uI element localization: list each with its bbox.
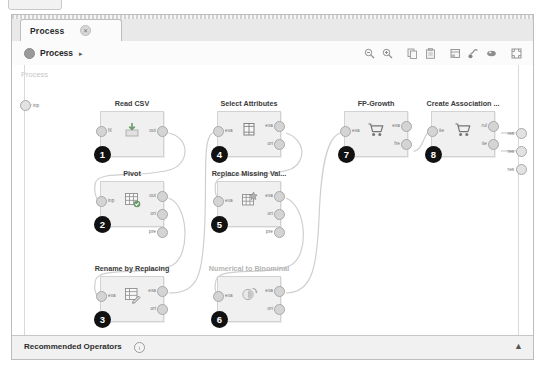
port-out-rul[interactable]	[488, 121, 499, 132]
port-label: ite	[439, 128, 444, 133]
operator-body[interactable]: inpoutoripre2	[100, 181, 164, 227]
port-label: out	[149, 193, 156, 198]
port-label: exa	[148, 288, 156, 293]
operator-node-4[interactable]: Select Attributesexaexaori4	[217, 111, 281, 157]
operator-body[interactable]: exaexafre7	[344, 111, 408, 157]
operator-body[interactable]: exaexaori3	[100, 276, 164, 322]
operator-node-3[interactable]: Rename by Replacingexaexaori3	[100, 276, 164, 322]
port-dot[interactable]	[516, 146, 527, 157]
process-designer-window: Process ✕ Process ▸	[0, 0, 545, 369]
tab-process[interactable]: Process ✕	[20, 19, 122, 41]
rail-port-res-2[interactable]: res	[508, 146, 527, 157]
port-label: ori	[268, 211, 273, 216]
operator-node-2[interactable]: Pivotinpoutoripre2	[100, 181, 164, 227]
port-in-inp[interactable]	[96, 196, 107, 207]
operator-node-8[interactable]: Create Association ...iterulite8	[431, 111, 495, 157]
tab-strip: Process ✕	[12, 19, 533, 42]
canvas-toolbar	[360, 44, 525, 62]
port-out-fre[interactable]	[401, 139, 412, 150]
port-in-exa[interactable]	[96, 291, 107, 302]
operator-title: Pivot	[123, 169, 141, 178]
port-label: exa	[265, 193, 273, 198]
window-top-stub	[8, 0, 62, 10]
operator-title: Replace Missing Val...	[212, 169, 287, 178]
process-canvas[interactable]: Process	[12, 65, 533, 336]
port-out-ori[interactable]	[274, 209, 285, 220]
auto-layout-icon[interactable]	[446, 45, 464, 62]
numerical-to-binominal-icon	[240, 286, 258, 304]
rail-port-res-3[interactable]: res	[508, 164, 527, 175]
port-in-exa[interactable]	[213, 196, 224, 207]
port-in-exa[interactable]	[213, 126, 224, 137]
port-out-out[interactable]	[157, 126, 168, 137]
port-label: out	[149, 128, 156, 133]
shopping-cart-icon	[454, 121, 472, 139]
replace-missing-values-icon	[240, 191, 258, 209]
tab-process-label: Process	[30, 26, 64, 36]
port-label: ori	[268, 141, 273, 146]
breadcrumb[interactable]: Process ▸	[24, 46, 83, 60]
operator-node-7[interactable]: FP-Growthexaexafre7	[344, 111, 408, 157]
operator-node-1[interactable]: Read CSVfilout1	[100, 111, 164, 157]
port-label: ori	[151, 211, 156, 216]
close-glyph: ✕	[83, 28, 88, 34]
fit-to-screen-icon[interactable]	[507, 45, 525, 62]
port-out-ori[interactable]	[157, 209, 168, 220]
port-in-exa[interactable]	[340, 126, 351, 137]
port-label: exa	[225, 293, 233, 298]
zoom-in-icon[interactable]	[378, 45, 396, 62]
port-dot[interactable]	[516, 164, 527, 175]
rail-port-res-1[interactable]: res	[508, 128, 527, 139]
port-out-exa[interactable]	[274, 121, 285, 132]
port-out-pre[interactable]	[274, 227, 285, 238]
port-out-exa[interactable]	[274, 286, 285, 297]
port-label: exa	[265, 123, 273, 128]
rail-port-label: res	[508, 131, 514, 136]
operator-step-badge: 7	[338, 146, 355, 163]
recommended-operators-bar[interactable]: Recommended Operators i ▲	[12, 335, 533, 359]
port-label: exa	[225, 198, 233, 203]
port-out-ite[interactable]	[488, 139, 499, 150]
port-out-exa[interactable]	[157, 286, 168, 297]
rail-port-inp[interactable]: inp	[20, 100, 39, 111]
operator-step-badge: 8	[425, 146, 442, 163]
port-out-exa[interactable]	[401, 121, 412, 132]
port-out-exa[interactable]	[274, 191, 285, 202]
port-out-out[interactable]	[157, 191, 168, 202]
operator-step-badge: 5	[211, 216, 228, 233]
port-label: exa	[225, 128, 233, 133]
operator-title: FP-Growth	[358, 99, 395, 108]
port-in-ite[interactable]	[427, 126, 438, 137]
chevron-right-icon[interactable]: ▸	[79, 50, 83, 57]
operator-node-5[interactable]: Replace Missing Val...exaexaoripre5	[217, 181, 281, 227]
zoom-out-icon[interactable]	[360, 45, 378, 62]
port-out-pre[interactable]	[157, 227, 168, 238]
pan-icon[interactable]	[482, 45, 500, 62]
port-out-ori[interactable]	[157, 304, 168, 315]
chevron-up-icon[interactable]: ▲	[514, 342, 523, 351]
info-icon[interactable]: i	[134, 342, 145, 353]
port-in-fil[interactable]	[96, 126, 107, 137]
close-icon[interactable]: ✕	[80, 25, 91, 36]
auto-wire-icon[interactable]	[464, 45, 482, 62]
operator-step-badge: 4	[211, 146, 228, 163]
port-dot[interactable]	[20, 100, 31, 111]
operator-body[interactable]: exaexaoripre5	[217, 181, 281, 227]
operator-title: Read CSV	[115, 99, 149, 108]
operator-body[interactable]: filout1	[100, 111, 164, 157]
breadcrumb-row: Process ▸	[12, 41, 533, 66]
operator-body[interactable]: exaexaori6	[217, 276, 281, 322]
paste-icon[interactable]	[421, 45, 439, 62]
operator-step-badge: 3	[94, 311, 111, 328]
operator-body[interactable]: iterulite8	[431, 111, 495, 157]
port-out-ori[interactable]	[274, 139, 285, 150]
port-in-exa[interactable]	[213, 291, 224, 302]
copy-icon[interactable]	[403, 45, 421, 62]
port-out-ori[interactable]	[274, 304, 285, 315]
operator-body[interactable]: exaexaori4	[217, 111, 281, 157]
operator-node-6[interactable]: Numerical to Binominalexaexaori6	[217, 276, 281, 322]
recommended-operators-label: Recommended Operators	[24, 342, 122, 351]
port-dot[interactable]	[516, 128, 527, 139]
process-panel: Process ✕ Process ▸	[11, 14, 534, 360]
port-label: pre	[266, 229, 273, 234]
